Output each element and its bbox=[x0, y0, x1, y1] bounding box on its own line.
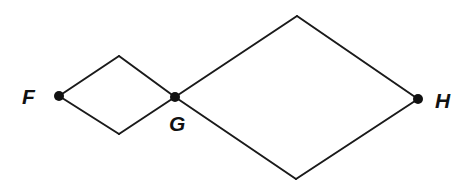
node-f-dot bbox=[54, 91, 64, 101]
nodes bbox=[54, 91, 423, 104]
label-h: H bbox=[435, 89, 451, 112]
node-h-dot bbox=[413, 94, 423, 104]
diamond-path-diagram: F G H bbox=[0, 0, 470, 181]
edge-large-bottom-h bbox=[296, 99, 418, 179]
edge-large-top-h bbox=[297, 16, 418, 99]
label-g: G bbox=[169, 112, 185, 135]
edge-g-large-bottom bbox=[175, 97, 296, 179]
label-f: F bbox=[22, 85, 36, 108]
edge-small-bottom-g bbox=[119, 97, 175, 134]
edge-f-small-top bbox=[59, 56, 119, 96]
edges bbox=[59, 16, 418, 179]
edge-f-small-bottom bbox=[59, 96, 119, 134]
labels: F G H bbox=[22, 85, 451, 135]
edge-g-large-top bbox=[175, 16, 297, 97]
edge-small-top-g bbox=[119, 56, 175, 97]
node-g-dot bbox=[170, 92, 180, 102]
